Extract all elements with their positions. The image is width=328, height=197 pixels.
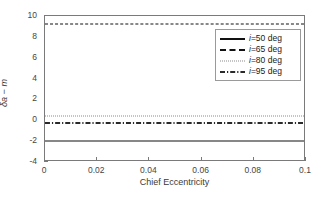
legend-item-label: i=80 deg — [249, 56, 282, 65]
legend: i=50 degi=65 degi=80 degi=95 deg — [215, 29, 301, 81]
legend-item-label: i=95 deg — [249, 67, 282, 76]
x-tick-label: 0.08 — [245, 166, 262, 175]
y-tick-label: 10 — [28, 11, 37, 20]
legend-line-sample — [220, 44, 245, 55]
chart-figure: 1086420-2-4 δa − m 00.020.040.060.080.1 … — [0, 0, 328, 197]
series-line — [45, 24, 304, 25]
y-tick-label: 4 — [32, 73, 37, 82]
legend-line-sample — [220, 66, 245, 77]
x-axis-label: Chief Eccentricity — [44, 178, 305, 187]
legend-item: i=95 deg — [220, 66, 295, 77]
legend-item: i=50 deg — [220, 33, 295, 44]
x-tick-mark — [96, 157, 97, 161]
legend-item-label: i=50 deg — [249, 34, 282, 43]
x-tick-label: 0 — [42, 166, 47, 175]
x-tick-mark — [44, 157, 45, 161]
legend-item: i=80 deg — [220, 55, 295, 66]
legend-line-sample — [220, 33, 245, 44]
y-tick-label: 6 — [32, 52, 37, 61]
x-tick-mark — [201, 157, 202, 161]
series-line — [45, 116, 304, 117]
y-tick-label: -2 — [29, 136, 37, 145]
legend-item: i=65 deg — [220, 44, 295, 55]
y-tick-label: 0 — [32, 115, 37, 124]
x-tick-mark — [148, 157, 149, 161]
legend-line-sample — [220, 55, 245, 66]
x-tick-mark — [253, 157, 254, 161]
x-tick-label: 0.1 — [299, 166, 311, 175]
legend-item-label: i=65 deg — [249, 45, 282, 54]
series-line — [45, 122, 304, 124]
y-tick-label: 8 — [32, 32, 37, 41]
x-tick-label: 0.06 — [192, 166, 209, 175]
series-line — [45, 141, 304, 142]
x-tick-label: 0.04 — [140, 166, 157, 175]
x-tick-mark — [305, 157, 306, 161]
x-tick-label: 0.02 — [88, 166, 105, 175]
y-tick-label: 2 — [32, 94, 37, 103]
y-axis-label: δa − m — [0, 79, 9, 107]
